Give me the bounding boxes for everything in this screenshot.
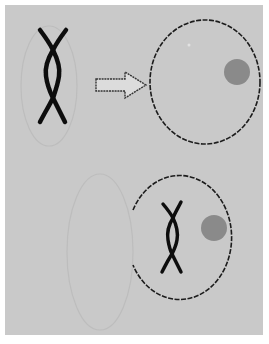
diagram: Cell fusion diagram — [0, 0, 269, 344]
highlight-dot — [188, 44, 191, 47]
nucleolus-bottom — [201, 215, 227, 241]
nucleolus-top — [224, 59, 250, 85]
diagram-canvas — [0, 0, 269, 344]
panel-background — [5, 5, 263, 335]
